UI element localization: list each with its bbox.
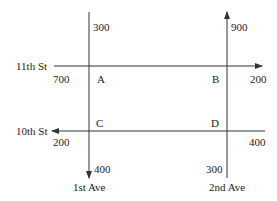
flow-tenth-out: 200 [53,136,70,148]
first-ave-label: 1st Ave [73,181,106,193]
flow-first-ave-out: 400 [94,163,111,175]
flow-second-ave-in: 300 [206,163,223,175]
flow-second-ave-out: 900 [231,21,248,33]
intersection-d: D [211,117,219,129]
flow-eleventh-in: 700 [53,73,70,85]
flow-first-ave-in: 300 [93,21,110,33]
tenth-st-label: 10th St [16,125,47,137]
second-ave-label: 2nd Ave [209,181,245,193]
intersection-a: A [97,73,105,85]
intersection-b: B [212,73,219,85]
flow-tenth-in: 400 [249,136,266,148]
eleventh-st-label: 11th St [16,60,47,72]
intersection-c: C [96,117,103,129]
flow-eleventh-out: 200 [250,73,267,85]
